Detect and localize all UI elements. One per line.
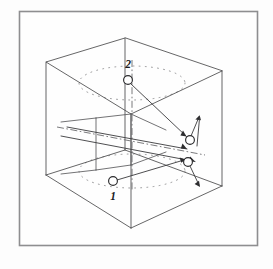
node-2-target-marker[interactable] [186,136,195,145]
figure-root: 2 1 [0,0,273,269]
node-2-label: 2 [124,58,131,70]
node-1-label: 1 [110,190,116,202]
node-1-target-marker[interactable] [184,158,193,167]
isometric-cube-diagram: 2 1 [0,0,273,269]
node-2-marker[interactable] [124,76,133,85]
node-1-marker[interactable] [109,177,118,186]
